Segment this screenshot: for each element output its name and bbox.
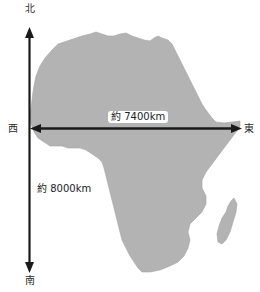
east-west-distance-label: 約 7400km bbox=[108, 111, 168, 123]
west-label: 西 bbox=[8, 124, 18, 134]
africa-size-diagram: 北 南 西 東 約 7400km 約 8000km bbox=[0, 0, 260, 292]
south-label: 南 bbox=[25, 276, 35, 286]
north-south-arrow-icon bbox=[25, 27, 34, 273]
east-label: 東 bbox=[244, 124, 254, 134]
north-label: 北 bbox=[25, 4, 35, 14]
madagascar-island-icon bbox=[217, 198, 237, 244]
map-svg bbox=[0, 0, 260, 292]
africa-continent-icon bbox=[30, 32, 240, 272]
north-south-distance-label: 約 8000km bbox=[37, 184, 91, 194]
